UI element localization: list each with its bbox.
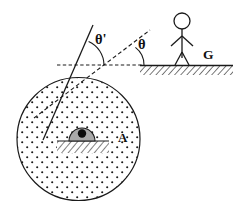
stick-figure (171, 13, 193, 65)
stick-figure-arm-right (182, 36, 193, 46)
stick-figure-head (174, 13, 190, 29)
theta-prime-label: θ' (95, 31, 107, 47)
stick-figure-arm-left (171, 36, 182, 46)
ground-hatching (140, 66, 233, 75)
ground-g-label: G (203, 47, 214, 62)
sphere-a-label: A (118, 130, 128, 145)
dome-center-dot (78, 129, 86, 137)
dome-hatch-base (57, 141, 109, 153)
stick-figure-leg-left (175, 52, 182, 65)
figure-canvas: θ' θ A G (0, 0, 238, 209)
stick-figure-leg-right (182, 52, 189, 65)
physics-diagram: θ' θ A G (0, 0, 238, 209)
theta-label: θ (138, 36, 146, 52)
